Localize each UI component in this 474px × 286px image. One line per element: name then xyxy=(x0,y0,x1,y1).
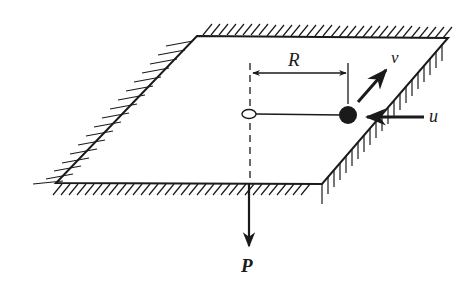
label-velocity-v: v xyxy=(391,49,399,66)
label-velocity-u: u xyxy=(429,107,438,125)
label-force-P: P xyxy=(241,256,253,275)
hatch-bottom-edge xyxy=(53,184,310,195)
label-radius-R: R xyxy=(288,50,300,69)
diagram-canvas: R v u P xyxy=(0,0,474,286)
diagram-svg xyxy=(0,0,474,286)
table-hole xyxy=(242,110,256,119)
string-line xyxy=(256,114,342,115)
mass-ball xyxy=(339,106,357,124)
